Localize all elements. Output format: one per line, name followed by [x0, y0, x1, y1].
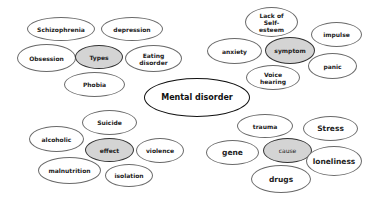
schizophrenia-label: Schizophrenia: [37, 26, 85, 33]
trauma-label: trauma: [253, 123, 277, 130]
eating-disorder-node: Eating disorder: [125, 45, 182, 72]
alcoholic-label: alcoholic: [42, 136, 72, 143]
panic-node: panic: [308, 53, 357, 79]
violence-node: violence: [136, 138, 184, 163]
suicide-label: Suicide: [97, 119, 122, 126]
anxiety-label: anxiety: [222, 48, 247, 55]
gene-node: gene: [206, 140, 259, 165]
panic-label: panic: [323, 63, 341, 70]
symptom-hub-label: symptom: [274, 47, 305, 54]
phobia-node: Phobia: [64, 72, 125, 97]
gene-label: gene: [222, 148, 243, 157]
anxiety-node: anxiety: [207, 38, 262, 64]
malnutrition-node: malnutrition: [38, 157, 101, 184]
voice-hearing-label: Voice hearing: [260, 71, 286, 85]
lack-of-self-esteem-node: Lack of Self- esteem: [245, 7, 298, 37]
isolation-label: isolation: [114, 172, 143, 179]
cause-hub-node: cause: [263, 138, 312, 163]
stress-label: Stress: [317, 124, 344, 133]
phobia-label: Phobia: [83, 81, 106, 88]
voice-hearing-node: Voice hearing: [246, 65, 300, 90]
obsession-node: Obsession: [17, 44, 76, 72]
types-hub-label: Types: [89, 54, 108, 61]
isolation-node: isolation: [105, 164, 153, 187]
malnutrition-label: malnutrition: [48, 167, 90, 174]
cause-hub-label: cause: [279, 147, 297, 154]
symptom-hub-node: symptom: [265, 37, 315, 64]
loneliness-node: loneliness: [306, 146, 362, 176]
impulse-label: impulse: [323, 31, 350, 38]
suicide-node: Suicide: [82, 110, 137, 135]
alcoholic-node: alcoholic: [29, 126, 84, 152]
depression-label: depression: [113, 26, 150, 33]
mental-disorder-node: Mental disorder: [144, 78, 250, 117]
drugs-node: drugs: [251, 165, 311, 193]
trauma-node: trauma: [237, 114, 293, 138]
violence-label: violence: [146, 147, 174, 154]
effect-hub-label: effect: [100, 147, 119, 154]
depression-node: depression: [101, 17, 163, 41]
types-hub-node: Types: [75, 45, 123, 69]
stress-node: Stress: [303, 116, 358, 141]
schizophrenia-node: Schizophrenia: [27, 17, 95, 41]
mental-disorder-label: Mental disorder: [161, 93, 233, 102]
loneliness-label: loneliness: [313, 157, 356, 166]
obsession-label: Obsession: [29, 55, 64, 62]
effect-hub-node: effect: [85, 138, 134, 162]
impulse-node: impulse: [311, 22, 362, 47]
eating-disorder-label: Eating disorder: [139, 52, 167, 66]
lack-of-self-esteem-label: Lack of Self- esteem: [259, 12, 284, 33]
drugs-label: drugs: [269, 175, 293, 184]
